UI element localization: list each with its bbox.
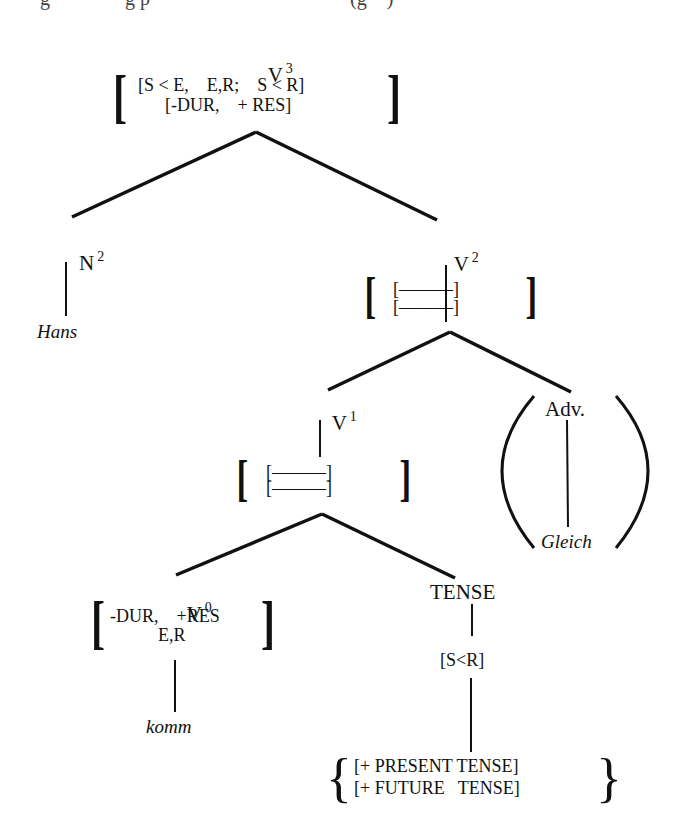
- node-n2-label: N2: [58, 232, 104, 295]
- syntax-tree-diagram: g g p (g ) V3 [ [S < E, E,R; S < R] [-DU…: [0, 0, 682, 821]
- cutoff-previous-line: g g p (g ): [40, 0, 393, 8]
- tense-option-present: [+ PRESENT TENSE]: [354, 757, 519, 775]
- branch-adv-gleich: [567, 420, 568, 527]
- right-bracket-icon: ]: [261, 592, 275, 652]
- branch-v1-v0: [176, 514, 322, 575]
- node-v1-category: V: [332, 411, 347, 435]
- leaf-hans: Hans: [37, 322, 77, 341]
- right-bracket-icon: ]: [399, 453, 411, 503]
- node-v3-bar-level: 3: [286, 61, 293, 76]
- right-bracket-icon: ]: [387, 66, 401, 126]
- branch-v1-tense: [322, 514, 455, 578]
- tense-option-future: [+ FUTURE TENSE]: [354, 779, 520, 797]
- leaf-komm: komm: [146, 717, 191, 736]
- node-v1-features-line2: [———]: [266, 479, 332, 497]
- branch-v2-adv: [450, 332, 571, 392]
- left-bracket-icon: [: [236, 453, 248, 503]
- node-v1-label: V1: [311, 392, 357, 455]
- node-v3-features-line1: [S < E, E,R; S < R]: [138, 76, 304, 94]
- node-v0-features-line2: E,R: [158, 626, 186, 644]
- left-bracket-icon: [: [113, 66, 127, 126]
- left-bracket-icon: [: [91, 592, 105, 652]
- left-bracket-icon: [: [364, 270, 376, 320]
- node-n2-bar-level: 2: [97, 249, 104, 264]
- node-adv-label: Adv.: [545, 399, 585, 420]
- node-v0-features-line1: -DUR, +RES: [110, 607, 220, 625]
- node-tense-label: TENSE: [430, 582, 495, 603]
- leaf-gleich: Gleich: [541, 532, 592, 551]
- node-tense-feature: [S<R]: [440, 651, 484, 669]
- node-v2-features-line1: [———]: [393, 280, 459, 298]
- branch-root-v2: [256, 132, 437, 220]
- node-v2-features-line2: [———]: [393, 298, 459, 316]
- node-v2-bar-level: 2: [472, 250, 479, 265]
- right-bracket-icon: ]: [525, 270, 537, 320]
- node-n2-category: N: [79, 251, 94, 275]
- right-brace-icon: }: [596, 751, 622, 805]
- left-brace-icon: {: [326, 751, 352, 805]
- right-parenthesis-icon: [616, 396, 648, 548]
- branch-v2-v1: [328, 332, 450, 390]
- branch-root-n2: [72, 132, 256, 217]
- node-v2-category: V: [454, 252, 469, 276]
- left-parenthesis-icon: [502, 396, 534, 548]
- node-v1-bar-level: 1: [350, 409, 357, 424]
- node-v3-features-line2: [-DUR, + RES]: [165, 96, 291, 114]
